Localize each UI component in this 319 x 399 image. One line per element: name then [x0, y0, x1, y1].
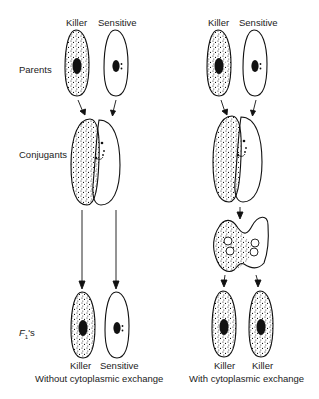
f1-suffix: 's	[28, 327, 35, 338]
right-top-label-sensitive: Sensitive	[239, 17, 278, 28]
left-caption: Without cytoplasmic exchange	[35, 373, 163, 384]
left-f1-sensitive-cell	[105, 292, 129, 358]
right-parent-killer-cell	[207, 30, 231, 96]
row-label-parents: Parents	[19, 64, 52, 75]
left-top-label-sensitive: Sensitive	[98, 17, 137, 28]
left-f1-killer-cell	[71, 292, 95, 358]
right-f1-killer-cell-2	[249, 291, 273, 357]
right-caption: With cytoplasmic exchange	[189, 373, 304, 384]
row-label-f1: F1's	[19, 327, 35, 340]
left-conjugant-pair	[71, 119, 120, 205]
right-arrows-parents-to-conjugants	[221, 100, 256, 116]
left-parent-killer-cell	[65, 30, 89, 96]
left-arrows-parents-to-conjugants	[78, 100, 116, 116]
left-top-label-killer: Killer	[66, 17, 87, 28]
right-bottom-label-killer-2: Killer	[252, 360, 273, 371]
row-label-conjugants: Conjugants	[19, 149, 67, 160]
right-arrow-conjugants-to-fused	[237, 207, 243, 219]
right-arrows-fused-to-f1	[221, 275, 261, 287]
right-fused-exchange-cell	[214, 217, 269, 271]
right-conjugant-pair	[213, 116, 262, 202]
right-f1-killer-cell-1	[212, 291, 236, 357]
left-parent-sensitive-cell	[104, 30, 128, 96]
left-bottom-label-killer: Killer	[70, 360, 91, 371]
left-bottom-label-sensitive: Sensitive	[100, 360, 139, 371]
left-arrows-conjugants-to-f1	[79, 210, 119, 289]
right-bottom-label-killer-1: Killer	[214, 360, 235, 371]
paramecium-diagram	[0, 0, 319, 399]
right-top-label-killer: Killer	[208, 17, 229, 28]
right-parent-sensitive-cell	[243, 30, 267, 96]
